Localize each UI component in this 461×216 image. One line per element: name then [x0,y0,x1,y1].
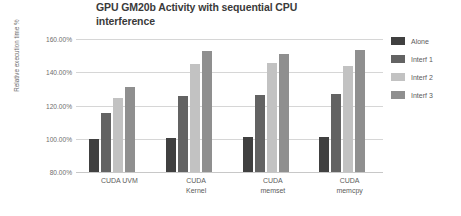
y-axis-tick-label: 80.00% [26,169,72,176]
plot-area [76,39,383,172]
chart-legend: AloneInterf 1Interf 2Interf 3 [391,32,461,104]
y-axis-tick-label: 140.00% [26,69,72,76]
bar[interactable] [166,138,176,172]
x-axis-category-label: CUDAmemset [235,176,311,196]
bar-group [76,39,153,172]
bar[interactable] [243,137,253,172]
gridline [76,172,383,173]
legend-label: Interf 3 [411,92,433,99]
legend-label: Interf 2 [411,74,433,81]
x-axis-category-labels: CUDA UVMCUDAKernelCUDAmemsetCUDAmemcpy [76,176,383,210]
chart-title: GPU GM20b Activity with sequential CPU i… [96,1,346,28]
x-axis-category-label: CUDA UVM [81,176,157,186]
bar[interactable] [202,51,212,172]
x-axis-category-label-line: CUDA [235,176,311,186]
legend-label: Alone [411,38,429,45]
y-axis-tick-label: 100.00% [26,135,72,142]
x-axis-category-label-line: memset [235,186,311,196]
bar[interactable] [101,113,111,172]
bar[interactable] [89,139,99,172]
bar-group [230,39,307,172]
x-axis-category-label: CUDAKernel [158,176,234,196]
bar-group [306,39,383,172]
legend-item[interactable]: Interf 3 [391,86,461,104]
x-axis-category-label-line: memcpy [312,186,388,196]
bar-group [153,39,230,172]
x-axis-category-label-line: CUDA [312,176,388,186]
bar[interactable] [355,50,365,172]
legend-swatch [391,55,405,63]
bar[interactable] [331,94,341,172]
x-axis-category-label-line: CUDA UVM [81,176,157,186]
y-axis-tick-label: 120.00% [26,102,72,109]
bar[interactable] [255,95,265,172]
bar[interactable] [279,54,289,172]
y-axis-title: Relative execution time % [13,0,20,116]
bar[interactable] [343,66,353,172]
x-axis-category-label: CUDAmemcpy [312,176,388,196]
bar[interactable] [178,96,188,172]
y-axis-tick-label: 160.00% [26,36,72,43]
y-axis-tick-labels: 80.00%100.00%120.00%140.00%160.00% [24,39,72,172]
legend-item[interactable]: Interf 1 [391,50,461,68]
legend-swatch [391,73,405,81]
legend-item[interactable]: Interf 2 [391,68,461,86]
legend-item[interactable]: Alone [391,32,461,50]
x-axis-category-label-line: Kernel [158,186,234,196]
x-axis-category-label-line: CUDA [158,176,234,186]
bar[interactable] [319,137,329,172]
bar[interactable] [267,63,277,172]
legend-label: Interf 1 [411,56,433,63]
legend-swatch [391,37,405,45]
bar[interactable] [113,98,123,172]
legend-swatch [391,91,405,99]
bar[interactable] [190,64,200,172]
bar[interactable] [125,87,135,172]
